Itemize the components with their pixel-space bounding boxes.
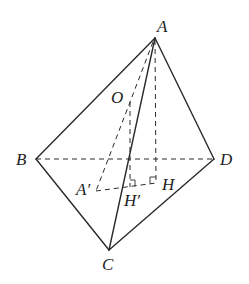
edge-AB bbox=[36, 38, 155, 159]
altitude-AH bbox=[155, 40, 156, 183]
label-D: D bbox=[220, 151, 232, 168]
segment-A-prime-H bbox=[96, 183, 156, 191]
label-O: O bbox=[111, 89, 123, 106]
label-B: B bbox=[16, 151, 26, 168]
edge-AD bbox=[155, 38, 214, 159]
edge-BC bbox=[36, 159, 109, 250]
label-A-prime: A′ bbox=[76, 181, 90, 198]
segment-AA-prime bbox=[96, 42, 153, 191]
label-A: A bbox=[157, 18, 167, 35]
diagram-svg bbox=[0, 0, 249, 284]
edge-AC bbox=[109, 38, 155, 250]
right-angle-mark-H bbox=[150, 177, 156, 184]
label-C: C bbox=[102, 256, 113, 273]
tetrahedron-diagram: A B C D O H A′ H′ bbox=[0, 0, 249, 284]
label-H-prime: H′ bbox=[124, 192, 140, 209]
label-H: H bbox=[162, 176, 174, 193]
